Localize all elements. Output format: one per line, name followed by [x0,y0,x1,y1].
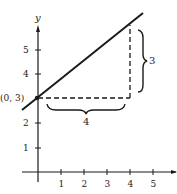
run-label: 4 [83,116,89,127]
x-tick-label-2: 2 [82,179,88,189]
run-brace [47,104,125,114]
y-tick-label-1: 1 [23,143,29,153]
y-axis-label: y [34,12,41,23]
x-tick-label-3: 3 [105,179,111,189]
y-tick-label-4: 4 [23,69,29,79]
x-tick-label-5: 5 [151,179,157,189]
y-axis-arrow-icon [36,25,40,32]
graph-line [22,13,143,110]
rise-brace [138,30,147,92]
y-tick-label-2: 2 [23,118,29,128]
x-tick-label-1: 1 [59,179,65,189]
rise-label: 3 [149,55,155,66]
intercept-label: (0, 3) [0,93,24,103]
x-tick-label-4: 4 [128,179,134,189]
slope-diagram: y 1 2 3 4 5 1 2 4 5 (0, 3) 3 4 [0,0,177,194]
y-tick-label-5: 5 [23,45,29,55]
x-axis-arrow-icon [171,170,177,174]
